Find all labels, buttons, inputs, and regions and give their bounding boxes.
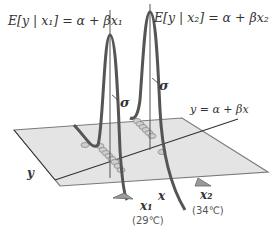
x2-label: x₂ — [199, 188, 212, 202]
equation-right: E[y | x₂] = α + βx₂ — [153, 10, 269, 25]
x1-temperature: (29℃) — [132, 215, 164, 226]
x1-label: x₁ — [139, 199, 152, 213]
y-axis-label: y — [26, 166, 35, 180]
x1-marker — [113, 193, 133, 199]
equation-left: E[y | x₁] = α + βx₁ — [7, 13, 123, 28]
x2-marker — [195, 178, 211, 186]
regression-diagram: E[y | x₁] = α + βx₁ E[y | x₂] = α + βx₂ … — [0, 0, 275, 239]
sigma-label-1: σ — [120, 95, 130, 110]
sigma-label-2: σ — [159, 78, 169, 93]
x-axis-label: x — [157, 189, 166, 203]
regression-equation: y = α + βx — [189, 103, 249, 116]
x2-temperature: (34℃) — [192, 205, 224, 216]
